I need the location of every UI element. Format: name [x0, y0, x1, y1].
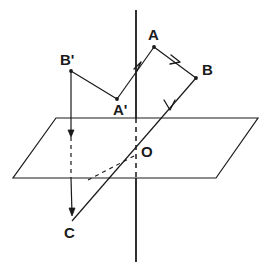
arrowhead-bprime-drop-icon — [68, 130, 74, 137]
segment-b-c — [72, 78, 196, 221]
vertex-dot-b — [194, 76, 198, 80]
label-point-a: A — [148, 27, 159, 42]
arrowhead-c-icon — [69, 208, 75, 216]
label-point-c: C — [64, 225, 75, 240]
vertex-dot-a — [152, 45, 156, 49]
vertex-dot-bprime — [69, 69, 73, 73]
label-point-b-prime: B' — [60, 52, 74, 67]
label-point-a-prime: A' — [113, 102, 127, 117]
geometry-canvas — [0, 0, 267, 271]
label-point-o: O — [141, 144, 153, 159]
geometry-figure: A B B' A' O C — [0, 0, 267, 271]
label-point-b: B — [202, 62, 213, 77]
segment-c-o-dashed — [88, 155, 136, 180]
segment-bprime-aprime — [71, 71, 117, 99]
